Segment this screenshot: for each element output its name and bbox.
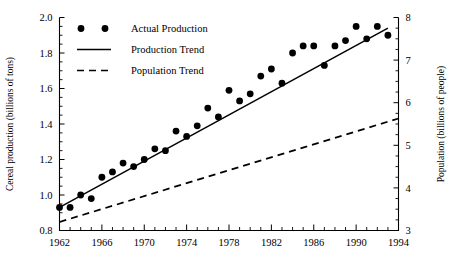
production-trend-line	[60, 28, 388, 207]
actual-production-point	[109, 169, 116, 176]
actual-production-point	[77, 192, 84, 199]
actual-production-point	[310, 43, 317, 50]
actual-production-point	[130, 163, 137, 170]
x-axis-tick-label: 1970	[134, 237, 155, 248]
actual-production-point	[173, 128, 180, 135]
y-axis-tick-label: 2.0	[39, 12, 52, 23]
actual-production-point	[226, 87, 233, 94]
actual-production-point	[279, 80, 286, 87]
x-axis-tick-label: 1974	[176, 237, 198, 248]
x-axis-tick-label: 1962	[49, 237, 70, 248]
actual-production-point	[141, 156, 148, 163]
legend-marker-dot-1	[78, 25, 85, 32]
actual-production-point	[332, 43, 339, 50]
actual-production-point	[204, 105, 211, 112]
x-axis-tick-label: 1982	[261, 237, 282, 248]
y-axis-tick-label: 1.0	[39, 190, 52, 201]
actual-production-point	[236, 98, 243, 105]
y-axis-tick-label: 1.8	[39, 48, 52, 59]
y-axis-tick-label: 1.6	[39, 83, 52, 94]
actual-production-point	[300, 43, 307, 50]
actual-production-point	[374, 23, 381, 30]
actual-production-point	[385, 32, 392, 39]
actual-production-point	[162, 147, 169, 154]
cereal-production-population-chart: 0.81.01.21.41.61.82.03456781962196619701…	[0, 0, 455, 272]
actual-production-point	[56, 204, 63, 211]
actual-production-point	[321, 62, 328, 69]
actual-production-point	[183, 133, 190, 140]
y2-axis-tick-label: 6	[406, 97, 411, 108]
actual-production-point	[363, 35, 370, 42]
x-axis-tick-label: 1994	[388, 237, 410, 248]
actual-production-point	[342, 37, 349, 44]
actual-production-point	[257, 73, 264, 80]
x-axis-tick-label: 1986	[303, 237, 324, 248]
actual-production-point	[215, 114, 222, 121]
legend-label-production-trend: Production Trend	[131, 44, 205, 55]
actual-production-point	[194, 122, 201, 129]
actual-production-point	[67, 204, 74, 211]
legend-label-population-trend: Population Trend	[131, 65, 204, 76]
legend-label-actual-production: Actual Production	[131, 23, 208, 34]
chart-figure: 0.81.01.21.41.61.82.03456781962196619701…	[0, 0, 455, 272]
y2-axis-tick-label: 5	[406, 140, 411, 151]
actual-production-point	[98, 174, 105, 181]
y-axis-title: Cereal production (billions of tons)	[5, 57, 16, 191]
actual-production-point	[88, 195, 95, 202]
legend-marker-dot-2	[102, 25, 109, 32]
y2-axis-tick-label: 3	[406, 225, 411, 236]
y-axis-tick-label: 0.8	[39, 225, 52, 236]
actual-production-point	[151, 145, 158, 152]
y2-axis-tick-label: 7	[406, 55, 411, 66]
actual-production-point	[289, 50, 296, 57]
y2-axis-tick-label: 8	[406, 12, 411, 23]
y2-axis-title: Population (billions of people)	[436, 66, 447, 182]
actual-production-point	[247, 90, 254, 97]
y-axis-tick-label: 1.4	[39, 119, 53, 130]
actual-production-point	[353, 23, 360, 30]
x-axis-tick-label: 1978	[219, 237, 240, 248]
y2-axis-tick-label: 4	[406, 183, 412, 194]
y-axis-tick-label: 1.2	[39, 154, 52, 165]
x-axis-tick-label: 1966	[91, 237, 112, 248]
x-axis-tick-label: 1990	[346, 237, 367, 248]
actual-production-point	[120, 160, 127, 167]
actual-production-point	[268, 66, 275, 73]
